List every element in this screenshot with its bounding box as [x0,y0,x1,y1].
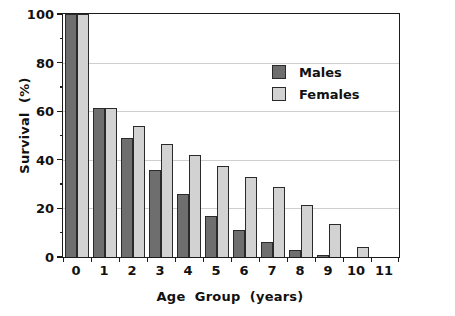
x-tick-label: 8 [295,263,304,278]
legend-item-males: Males [272,61,392,83]
legend-swatch-females-icon [272,87,286,101]
legend-swatch-males-icon [272,65,286,79]
legend-label-males: Males [299,65,342,80]
x-tick [371,257,372,262]
x-tick [203,257,204,262]
x-tick-label: 7 [267,263,276,278]
survival-bar-chart: Survival (%) Age Group (years) 020406080… [0,0,455,316]
bar-males-age-2 [121,138,133,257]
y-tick-label: 60 [36,104,54,119]
bar-females-age-5 [217,166,229,257]
x-axis-title: Age Group (years) [56,289,404,304]
bar-males-age-1 [93,108,105,257]
x-tick-label: 5 [211,263,220,278]
y-tick-label: 100 [27,7,54,22]
bar-females-age-4 [189,155,201,257]
x-tick [63,257,64,262]
bar-females-age-8 [301,205,313,257]
y-axis-title: Survival (%) [17,36,32,216]
y-tick-label: 0 [45,250,54,265]
x-tick [259,257,260,262]
x-tick [119,257,120,262]
bar-females-age-7 [273,187,285,257]
bar-males-age-8 [289,250,301,257]
bar-females-age-1 [105,108,117,257]
legend-label-females: Females [299,87,360,102]
y-tick-minor [60,232,64,233]
x-tick-label: 3 [155,263,164,278]
x-tick-label: 4 [183,263,192,278]
x-tick-label: 1 [99,263,108,278]
bar-males-age-6 [233,230,245,257]
x-tick-label: 2 [127,263,136,278]
bar-males-age-3 [149,170,161,257]
plot-area: 020406080100 [62,13,400,258]
y-tick-major [57,159,63,160]
x-tick [315,257,316,262]
y-tick-minor [60,135,64,136]
y-tick-major [57,13,63,14]
y-tick-major [57,62,63,63]
legend-item-females: Females [272,83,392,105]
y-tick-major [57,111,63,112]
bar-females-age-6 [245,177,257,257]
x-tick-label: 6 [239,263,248,278]
bar-males-age-7 [261,242,273,257]
x-tick [231,257,232,262]
x-tick-label: 10 [347,263,365,278]
bar-males-age-9 [317,255,329,257]
x-tick [91,257,92,262]
bar-males-age-0 [65,14,77,257]
y-tick-minor [60,183,64,184]
bar-males-age-4 [177,194,189,257]
y-tick-major [57,208,63,209]
bar-females-age-10 [357,247,369,257]
y-tick-label: 40 [36,152,54,167]
y-tick-minor [60,38,64,39]
x-tick [175,257,176,262]
bar-males-age-5 [205,216,217,257]
x-tick-label: 11 [375,263,393,278]
x-tick-label: 9 [323,263,332,278]
x-tick [147,257,148,262]
bar-females-age-0 [77,14,89,257]
y-tick-label: 80 [36,55,54,70]
y-tick-minor [60,86,64,87]
bar-females-age-2 [133,126,145,257]
chart-legend: Males Females [272,61,392,105]
x-tick [398,257,399,262]
bar-females-age-9 [329,224,341,257]
x-tick [287,257,288,262]
x-tick-label: 0 [71,263,80,278]
bar-females-age-3 [161,144,173,257]
y-tick-label: 20 [36,201,54,216]
x-tick [343,257,344,262]
